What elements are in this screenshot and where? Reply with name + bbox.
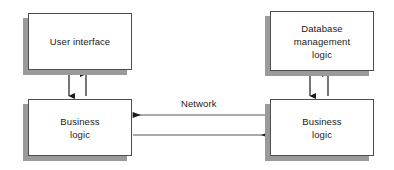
node-face: Business logic xyxy=(28,99,132,156)
node-label: Business logic xyxy=(302,115,341,141)
node-face: Business logic xyxy=(270,99,374,156)
node-user-interface[interactable]: User interface xyxy=(28,13,132,70)
node-label: User interface xyxy=(50,35,111,48)
node-face: User interface xyxy=(28,13,132,70)
node-database-management-logic[interactable]: Database management logic xyxy=(270,11,374,71)
network-edge-label: Network xyxy=(181,98,217,109)
node-business-logic-server[interactable]: Business logic xyxy=(270,99,374,156)
node-business-logic-client[interactable]: Business logic xyxy=(28,99,132,156)
node-label: Business logic xyxy=(60,115,99,141)
node-face: Database management logic xyxy=(270,11,374,71)
node-label: Database management logic xyxy=(294,22,350,61)
diagram-canvas: User interface Database management logic… xyxy=(0,0,394,170)
